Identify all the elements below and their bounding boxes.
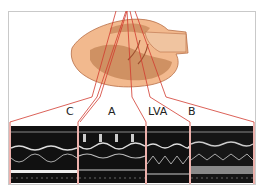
- panel-label-b: B: [188, 105, 196, 118]
- mmode-panel-c: [11, 126, 77, 183]
- mmode-panel-b: [191, 126, 253, 183]
- panel-label-a: A: [108, 105, 116, 118]
- panel-label-c: C: [66, 105, 74, 118]
- mmode-panel-a: [79, 126, 145, 183]
- panel-label-lva: LVA: [148, 105, 167, 118]
- mmode-panel-lva: [147, 126, 189, 183]
